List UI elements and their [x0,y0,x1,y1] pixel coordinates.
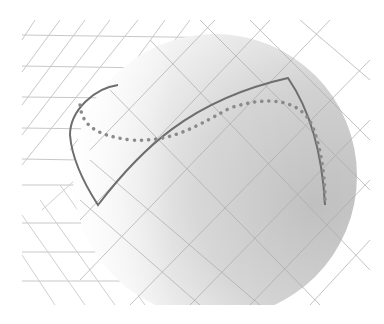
diagram-canvas [0,0,384,324]
sphere-diagram [0,0,384,324]
